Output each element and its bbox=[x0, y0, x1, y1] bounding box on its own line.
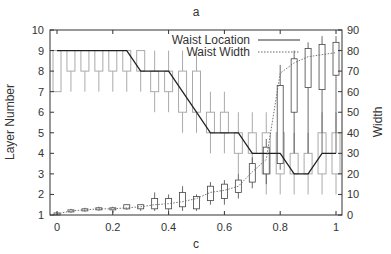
box bbox=[263, 147, 269, 174]
y-right-tick-label: 10 bbox=[347, 188, 359, 200]
y-right-tick-label: 80 bbox=[347, 45, 359, 57]
box bbox=[277, 86, 283, 164]
box bbox=[151, 71, 159, 92]
y-left-tick-label: 9 bbox=[38, 45, 44, 57]
box bbox=[235, 180, 241, 192]
y-axis-right-label: Width bbox=[371, 107, 385, 138]
box bbox=[249, 164, 255, 183]
box bbox=[53, 51, 61, 92]
y-left-tick-label: 4 bbox=[38, 147, 44, 159]
box bbox=[291, 59, 297, 112]
chart-title: a bbox=[193, 5, 200, 19]
x-tick-label: 0.6 bbox=[217, 221, 232, 233]
y-left-tick-label: 7 bbox=[38, 86, 44, 98]
x-tick-label: 1 bbox=[333, 221, 339, 233]
y-left-tick-label: 2 bbox=[38, 188, 44, 200]
box bbox=[95, 51, 103, 72]
y-right-tick-label: 70 bbox=[347, 65, 359, 77]
y-right-tick-label: 40 bbox=[347, 127, 359, 139]
y-left-tick-label: 3 bbox=[38, 168, 44, 180]
box bbox=[319, 44, 325, 89]
y-left-tick-label: 8 bbox=[38, 65, 44, 77]
y-left-tick-label: 10 bbox=[32, 24, 44, 36]
box bbox=[67, 51, 75, 72]
box bbox=[221, 184, 227, 198]
box bbox=[109, 51, 117, 72]
legend: Waist Location Waist Width bbox=[172, 33, 300, 59]
y-right-tick-label: 60 bbox=[347, 86, 359, 98]
y-left-tick-label: 5 bbox=[38, 127, 44, 139]
box bbox=[193, 71, 201, 112]
box bbox=[333, 42, 339, 75]
y-right-tick-label: 20 bbox=[347, 168, 359, 180]
x-tick-label: 0.2 bbox=[105, 221, 120, 233]
box bbox=[152, 199, 158, 209]
box bbox=[81, 51, 89, 72]
chart: 00.20.40.60.8112345678910010203040506070… bbox=[0, 0, 391, 254]
y-right-tick-label: 90 bbox=[347, 24, 359, 36]
y-right-tick-label: 50 bbox=[347, 106, 359, 118]
y-left-tick-label: 1 bbox=[38, 209, 44, 221]
box bbox=[194, 197, 200, 209]
box bbox=[220, 112, 228, 133]
legend-label-waist-width: Waist Width bbox=[186, 45, 250, 59]
y-axis-left-label: Layer Number bbox=[3, 84, 17, 160]
box bbox=[305, 49, 311, 88]
box bbox=[180, 192, 186, 206]
x-tick-label: 0.4 bbox=[161, 221, 176, 233]
x-axis-label: c bbox=[193, 237, 199, 251]
x-tick-label: 0 bbox=[54, 221, 60, 233]
y-right-tick-label: 0 bbox=[347, 209, 353, 221]
y-left-tick-label: 6 bbox=[38, 106, 44, 118]
y-right-tick-label: 30 bbox=[347, 147, 359, 159]
x-tick-label: 0.8 bbox=[273, 221, 288, 233]
